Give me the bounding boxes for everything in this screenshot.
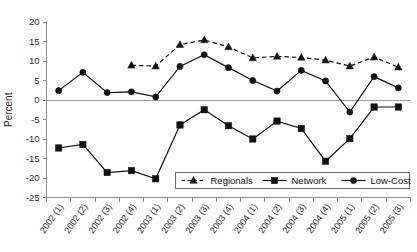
data-point-marker — [104, 89, 110, 95]
x-tick-label: 2002 (4) — [111, 202, 138, 235]
series-line — [59, 107, 399, 179]
data-point-marker — [225, 65, 231, 71]
series-low-cost — [56, 52, 402, 116]
y-axis-ticks — [43, 22, 47, 198]
x-tick-label: 2003 (3) — [183, 202, 210, 235]
data-point-marker — [128, 89, 134, 95]
data-point-marker — [177, 63, 183, 69]
y-tick-label: -15 — [26, 153, 40, 164]
data-point-marker — [201, 36, 208, 43]
x-tick-label: 2002 (3) — [86, 202, 113, 235]
data-point-marker — [80, 141, 86, 147]
data-point-marker — [298, 54, 305, 61]
data-point-marker — [370, 53, 377, 60]
data-point-marker — [347, 109, 353, 115]
chart-legend: RegionalsNetworkLow-Cost — [176, 173, 411, 189]
x-tick-label: 2004 (1) — [232, 202, 259, 235]
y-tick-label: -20 — [26, 172, 40, 183]
data-point-marker — [271, 177, 277, 183]
data-point-marker — [201, 107, 207, 113]
series-line — [59, 55, 399, 112]
x-tick-label: 2005 (2) — [353, 202, 380, 235]
data-point-marker — [128, 167, 134, 173]
series-network — [55, 104, 401, 182]
chart-container: 20151050-5-10-15-20-25 2002 (1)2002 (2)2… — [0, 0, 417, 252]
data-point-marker — [153, 176, 159, 182]
data-point-marker — [153, 94, 159, 100]
data-point-marker — [322, 78, 328, 84]
data-point-marker — [371, 104, 377, 110]
data-point-marker — [177, 122, 183, 128]
y-tick-label: 5 — [34, 75, 39, 86]
data-point-marker — [225, 43, 232, 50]
x-tick-label: 2002 (2) — [62, 202, 89, 235]
y-tick-label: -25 — [26, 192, 40, 203]
x-tick-label: 2003 (4) — [208, 202, 235, 235]
data-point-marker — [152, 62, 159, 69]
data-point-marker — [322, 158, 328, 164]
x-tick-label: 2002 (1) — [38, 202, 65, 235]
x-tick-label: 2005 (3) — [378, 202, 405, 235]
series-line — [131, 40, 398, 67]
data-point-marker — [273, 52, 280, 59]
x-axis-ticks — [47, 198, 411, 202]
x-tick-label: 2003 (2) — [159, 202, 186, 235]
x-tick-label: 2004 (2) — [256, 202, 283, 235]
data-point-marker — [55, 145, 61, 151]
legend-label: Network — [292, 175, 327, 186]
data-point-marker — [274, 88, 280, 94]
data-point-marker — [274, 118, 280, 124]
y-tick-label: -5 — [31, 114, 39, 125]
y-tick-label: -10 — [26, 133, 40, 144]
data-point-marker — [298, 125, 304, 131]
x-tick-label: 2003 (1) — [135, 202, 162, 235]
y-axis-title: Percent — [3, 92, 14, 127]
data-point-marker — [104, 169, 110, 175]
data-point-marker — [128, 61, 135, 68]
data-point-marker — [225, 123, 231, 129]
series-regionals — [128, 36, 402, 70]
data-point-marker — [176, 41, 183, 48]
legend-label: Low-Cost — [371, 175, 411, 186]
x-tick-label: 2005 (1) — [329, 202, 356, 235]
y-tick-label: 0 — [34, 94, 39, 105]
y-tick-label: 10 — [29, 55, 40, 66]
data-point-marker — [395, 85, 401, 91]
x-tick-label: 2004 (3) — [281, 202, 308, 235]
data-point-marker — [56, 88, 62, 94]
data-point-marker — [395, 104, 401, 110]
data-point-marker — [250, 77, 256, 83]
x-tick-label: 2004 (4) — [305, 202, 332, 235]
y-tick-label: 15 — [29, 36, 40, 47]
data-point-marker — [350, 177, 356, 183]
data-point-marker — [201, 52, 207, 58]
data-point-marker — [250, 136, 256, 142]
y-tick-label: 20 — [29, 16, 40, 27]
series-layer — [55, 36, 402, 182]
legend-label: Regionals — [211, 175, 253, 186]
data-point-marker — [347, 135, 353, 141]
y-axis-tick-labels: 20151050-5-10-15-20-25 — [26, 16, 40, 203]
line-chart: 20151050-5-10-15-20-25 2002 (1)2002 (2)2… — [0, 0, 417, 252]
data-point-marker — [371, 74, 377, 80]
data-point-marker — [80, 69, 86, 75]
data-point-marker — [298, 67, 304, 73]
x-axis-tick-labels: 2002 (1)2002 (2)2002 (3)2002 (4)2003 (1)… — [38, 202, 405, 235]
